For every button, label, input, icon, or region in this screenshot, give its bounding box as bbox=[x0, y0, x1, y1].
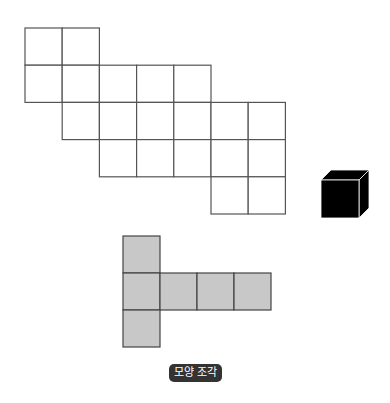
grid-cell bbox=[62, 102, 99, 139]
grid-cell bbox=[99, 65, 136, 102]
piece-cell bbox=[234, 273, 271, 310]
grid-cell bbox=[174, 140, 211, 177]
cube-net-grid bbox=[25, 28, 285, 214]
cube-icon bbox=[321, 170, 369, 218]
grid-cell bbox=[174, 65, 211, 102]
grid-cell bbox=[211, 102, 248, 139]
piece-cell bbox=[123, 273, 160, 310]
grid-cell bbox=[62, 28, 99, 65]
shape-piece-label: 모양 조각 bbox=[169, 364, 222, 382]
grid-cell bbox=[248, 102, 285, 139]
diagram-canvas bbox=[0, 0, 390, 403]
grid-cell bbox=[25, 65, 62, 102]
grid-cell bbox=[62, 65, 99, 102]
grid-cell bbox=[25, 28, 62, 65]
grid-cell bbox=[137, 140, 174, 177]
grid-cell bbox=[137, 102, 174, 139]
grid-cell bbox=[248, 140, 285, 177]
grid-cell bbox=[211, 140, 248, 177]
grid-cell bbox=[99, 102, 136, 139]
grid-cell bbox=[211, 177, 248, 214]
shape-piece bbox=[123, 236, 271, 347]
piece-cell bbox=[160, 273, 197, 310]
grid-cell bbox=[248, 177, 285, 214]
cube-front-face bbox=[321, 180, 359, 218]
piece-cell bbox=[197, 273, 234, 310]
grid-cell bbox=[99, 140, 136, 177]
grid-cell bbox=[137, 65, 174, 102]
grid-cell bbox=[174, 102, 211, 139]
piece-cell bbox=[123, 236, 160, 273]
piece-cell bbox=[123, 310, 160, 347]
